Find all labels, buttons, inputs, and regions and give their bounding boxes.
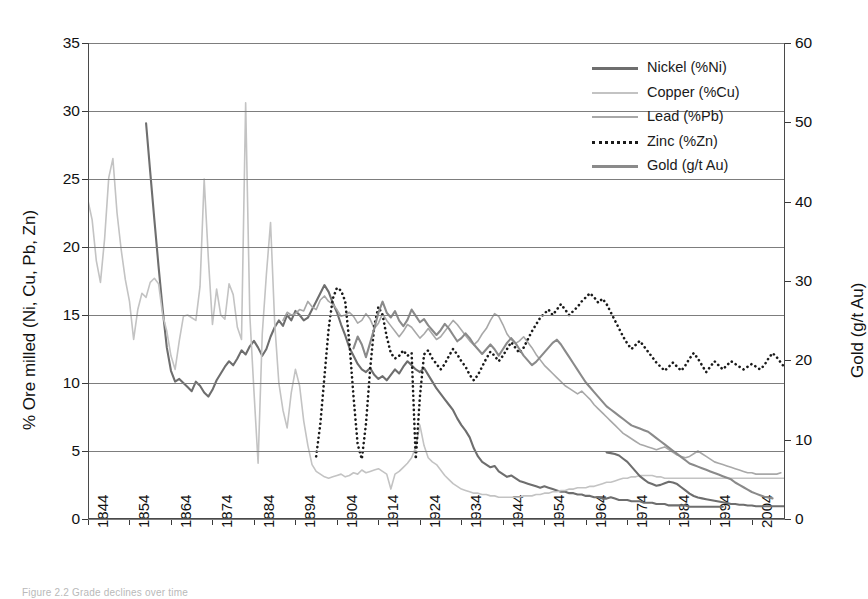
legend-item-lead[interactable]: Lead (%Pb) — [592, 104, 782, 129]
right-tick-label-40: 40 — [795, 194, 829, 209]
bottom-axis-line — [88, 518, 785, 519]
left-tick-label-10: 10 — [46, 375, 80, 390]
legend-label-nickel: Nickel (%Ni) — [647, 59, 727, 75]
right-tick-label-20: 20 — [795, 352, 829, 367]
right-tickmark-0 — [785, 519, 791, 520]
legend-label-gold: Gold (g/t Au) — [647, 157, 728, 173]
gridline-0 — [88, 519, 785, 520]
right-tickmark-10 — [785, 440, 791, 441]
series-line-gold-g-t-au-segment — [607, 452, 785, 506]
legend-item-zinc[interactable]: Zinc (%Zn) — [592, 129, 782, 154]
right-tickmark-60 — [785, 43, 791, 44]
right-tick-label-10: 10 — [795, 432, 829, 447]
legend-item-nickel[interactable]: Nickel (%Ni) — [592, 55, 782, 80]
right-tick-label-0: 0 — [795, 511, 829, 526]
left-tick-label-30: 30 — [46, 103, 80, 118]
legend-swatch-lead-icon — [592, 111, 638, 121]
legend-label-lead: Lead (%Pb) — [647, 108, 724, 124]
left-tick-label-15: 15 — [46, 307, 80, 322]
gridline-10 — [88, 383, 785, 384]
legend-item-copper[interactable]: Copper (%Cu) — [592, 80, 782, 105]
right-tick-label-60: 60 — [795, 35, 829, 50]
left-axis-label: % Ore milled (Ni, Cu, Pb, Zn) — [20, 210, 40, 430]
gridline-5 — [88, 451, 785, 452]
left-tick-label-5: 5 — [46, 443, 80, 458]
legend-swatch-zinc-icon — [592, 136, 638, 146]
left-axis-line — [88, 43, 89, 519]
legend-item-gold[interactable]: Gold (g/t Au) — [592, 153, 782, 178]
left-tick-label-25: 25 — [46, 171, 80, 186]
gridline-25 — [88, 179, 785, 180]
left-tick-label-20: 20 — [46, 239, 80, 254]
left-tick-label-35: 35 — [46, 35, 80, 50]
left-tick-label-0: 0 — [46, 511, 80, 526]
right-tick-label-50: 50 — [795, 114, 829, 129]
chart-legend: Nickel (%Ni)Copper (%Cu)Lead (%Pb)Zinc (… — [592, 55, 782, 178]
figure-caption: Figure 2.2 Grade declines over time — [22, 587, 542, 599]
series-line-gold-g-t-au — [354, 302, 773, 499]
legend-swatch-nickel-icon — [592, 62, 638, 72]
right-tickmark-30 — [785, 281, 791, 282]
legend-swatch-gold-icon — [592, 160, 638, 170]
right-tickmark-20 — [785, 360, 791, 361]
right-axis-line — [784, 43, 785, 519]
legend-label-copper: Copper (%Cu) — [647, 84, 740, 100]
right-tickmark-40 — [785, 202, 791, 203]
legend-label-zinc: Zinc (%Zn) — [647, 133, 718, 149]
right-axis-label: Gold (g/t Au) — [848, 283, 868, 378]
gridline-20 — [88, 247, 785, 248]
gridline-35 — [88, 43, 785, 44]
right-tick-label-30: 30 — [795, 273, 829, 288]
legend-swatch-copper-icon — [592, 87, 638, 97]
right-tickmark-50 — [785, 122, 791, 123]
gridline-15 — [88, 315, 785, 316]
